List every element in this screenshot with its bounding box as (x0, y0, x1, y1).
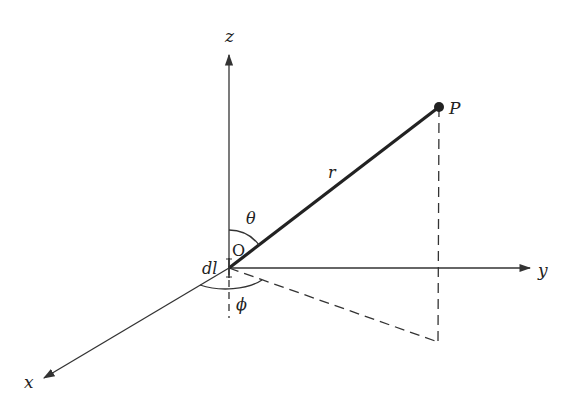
phi-label: ϕ (236, 295, 247, 314)
projection-line-xy (229, 268, 438, 342)
theta-label: θ (246, 209, 256, 228)
origin-label: O (232, 241, 245, 260)
radius-label: r (328, 163, 337, 182)
point-p-dot (434, 102, 444, 112)
radius-vector (229, 107, 439, 268)
spherical-coordinates-diagram: z y x P r θ O dl ϕ (0, 0, 574, 400)
element-label: dl (202, 259, 217, 278)
x-axis (44, 268, 229, 378)
projection-drop-line (438, 107, 439, 342)
point-p-label: P (448, 98, 461, 118)
z-axis-label: z (224, 26, 235, 46)
y-axis-label: y (537, 260, 548, 280)
phi-arc (200, 280, 262, 289)
x-axis-label: x (24, 372, 34, 392)
